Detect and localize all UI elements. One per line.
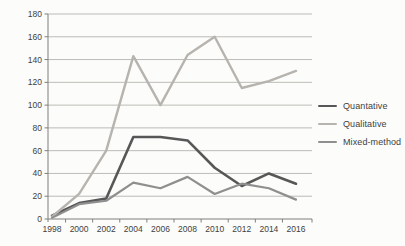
svg-text:2014: 2014 [259,224,278,234]
svg-text:2008: 2008 [178,224,197,234]
svg-text:80: 80 [33,123,43,133]
svg-text:0: 0 [37,214,42,224]
chart-screenshot: 0204060801001201401601801998200020022004… [0,0,405,246]
svg-text:120: 120 [28,77,42,87]
svg-text:40: 40 [33,168,43,178]
svg-text:2010: 2010 [205,224,224,234]
svg-text:1998: 1998 [43,224,62,234]
legend-label: Quantative [343,101,388,111]
qualitative-line-swatch-icon [318,123,337,125]
svg-text:2006: 2006 [151,224,170,234]
mixed-method-line-swatch-icon [318,141,337,143]
svg-text:2016: 2016 [287,224,306,234]
svg-text:140: 140 [28,55,42,65]
svg-text:2002: 2002 [97,224,116,234]
legend-item-mixed-method: Mixed-method [318,133,401,151]
svg-text:2012: 2012 [232,224,251,234]
legend-item-quantative: Quantative [318,97,401,115]
svg-text:60: 60 [33,146,43,156]
quantative-line-swatch-icon [318,105,337,108]
svg-text:2004: 2004 [124,224,143,234]
svg-text:180: 180 [28,9,42,19]
svg-text:160: 160 [28,32,42,42]
chart-legend: Quantative Qualitative Mixed-method [318,97,401,151]
svg-text:20: 20 [33,191,43,201]
svg-text:2000: 2000 [70,224,89,234]
legend-item-qualitative: Qualitative [318,115,401,133]
legend-label: Qualitative [343,119,387,129]
svg-text:100: 100 [28,100,42,110]
legend-label: Mixed-method [343,137,401,147]
